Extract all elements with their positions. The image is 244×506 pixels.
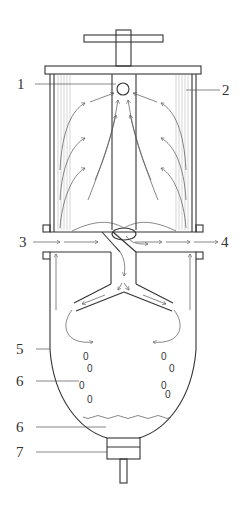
label-6b: 6 <box>16 419 24 435</box>
svg-text:0: 0 <box>87 363 93 374</box>
right-swirl-arrow <box>153 310 180 342</box>
liquid-surface <box>83 416 171 419</box>
svg-text:0: 0 <box>79 380 85 391</box>
label-2: 2 <box>222 82 230 98</box>
upper-flow-arrows <box>60 93 186 231</box>
t-handle <box>84 30 163 66</box>
top-cap <box>45 66 201 74</box>
svg-text:0: 0 <box>83 351 89 362</box>
svg-text:0: 0 <box>169 363 175 374</box>
separator-diagram: 0 0 0 0 0 0 0 0 1 2 3 4 5 6 6 7 <box>0 0 244 506</box>
label-3: 3 <box>19 234 27 250</box>
drain-valve <box>107 438 140 483</box>
label-5: 5 <box>16 341 24 357</box>
label-6a: 6 <box>16 373 24 389</box>
svg-text:0: 0 <box>87 394 93 405</box>
label-4: 4 <box>221 234 229 250</box>
svg-text:0: 0 <box>161 351 167 362</box>
outlet-orifice <box>117 83 129 95</box>
label-1: 1 <box>17 76 25 92</box>
label-7: 7 <box>16 444 24 460</box>
center-pipe <box>112 74 136 240</box>
lower-vessel-right <box>139 259 196 438</box>
svg-text:0: 0 <box>165 389 171 400</box>
filter-element-hatching <box>58 75 188 230</box>
droplets: 0 0 0 0 0 0 0 0 <box>79 351 175 405</box>
y-spreader <box>74 284 173 311</box>
lower-vessel-left <box>50 259 107 438</box>
callout-labels: 1 2 3 4 5 6 6 7 <box>16 76 230 460</box>
left-swirl-arrow <box>66 310 93 342</box>
